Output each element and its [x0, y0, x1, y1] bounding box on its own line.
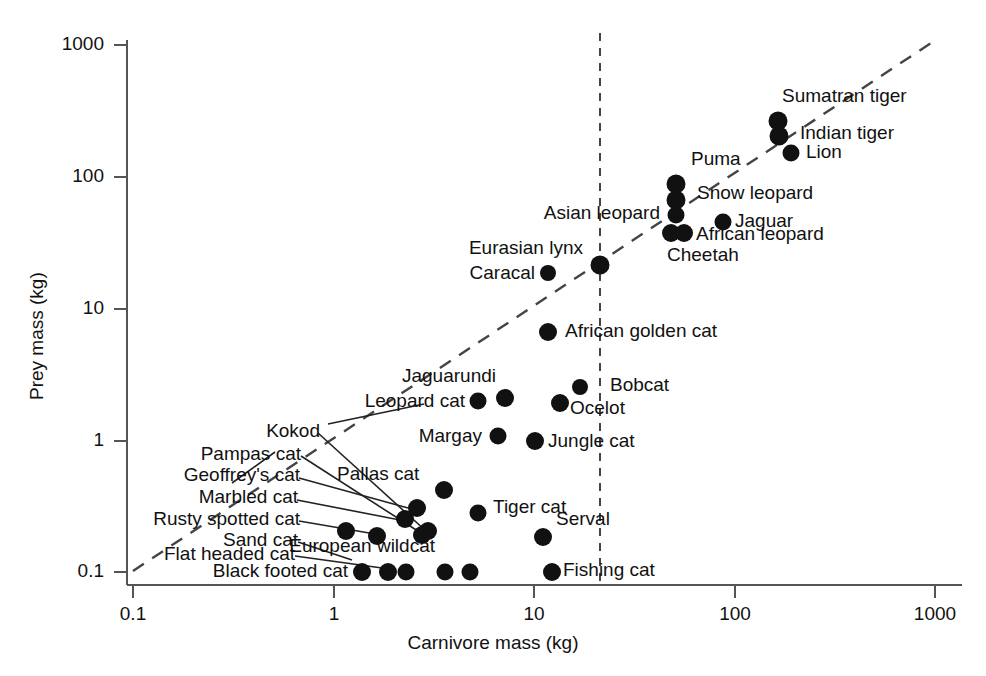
point-serval[interactable] [534, 528, 552, 546]
label-asian-leopard: Asian leopard [455, 203, 660, 222]
label-margay: Margay [330, 426, 482, 445]
label-indian-tiger: Indian tiger [800, 123, 894, 142]
point-fishing-cat[interactable] [543, 563, 561, 581]
y-tick-label-1000: 1000 [36, 33, 104, 55]
label-jungle-cat: Jungle cat [548, 431, 635, 450]
label-rusty-spotted-cat: Rusty spotted cat [80, 509, 300, 528]
point-asian-leopard[interactable] [668, 207, 685, 224]
point-african-golden-cat[interactable] [539, 323, 557, 341]
scatter-plot-figure: 1000 100 10 1 0.1 0.1 1 10 100 1000 Prey… [0, 0, 986, 676]
point-caracal[interactable] [540, 265, 556, 281]
label-leopard-cat: Leopard cat [290, 391, 465, 410]
x-tick-label-100: 100 [695, 603, 775, 625]
x-tick-label-1000: 1000 [895, 603, 975, 625]
point-cheetah[interactable] [675, 224, 693, 242]
point-marbled-cat[interactable] [396, 510, 414, 528]
label-black-footed-cat: Black footed cat [100, 561, 348, 580]
point-jungle-cat[interactable] [526, 432, 544, 450]
label-puma: Puma [691, 149, 741, 168]
y-axis-title: Prey mass (kg) [26, 272, 48, 400]
y-tick-label-100: 100 [36, 165, 104, 187]
label-kokod: Kokod [115, 421, 320, 440]
point-eurasian-lynx[interactable] [591, 256, 610, 275]
label-jaguarundi: Jaguarundi [300, 366, 496, 385]
point-black-footed-cat[interactable] [353, 563, 371, 581]
point-european-wildcat[interactable] [437, 564, 454, 581]
label-african-golden-cat: African golden cat [565, 321, 717, 340]
point-jaguarundi[interactable] [496, 389, 514, 407]
point-margay[interactable] [490, 428, 507, 445]
x-tick-label-1: 1 [294, 603, 374, 625]
point-indian-tiger[interactable] [770, 127, 789, 146]
x-axis-ticks [133, 585, 935, 598]
label-bobcat: Bobcat [610, 375, 669, 394]
label-serval: Serval [556, 509, 610, 528]
point-bobcat[interactable] [572, 379, 588, 395]
label-pampas-cat: Pampas cat [115, 444, 301, 463]
label-caracal: Caracal [393, 263, 535, 282]
point-pallas-cat[interactable] [435, 481, 453, 499]
point-lion[interactable] [783, 145, 800, 162]
label-cheetah: Cheetah [667, 245, 739, 264]
point-unlabeled-1[interactable] [462, 564, 479, 581]
point-flat-headed-cat[interactable] [398, 564, 415, 581]
label-eurasian-lynx: Eurasian lynx [393, 238, 583, 257]
label-pallas-cat: Pallas cat [337, 464, 419, 483]
y-tick-label-0.1: 0.1 [36, 560, 104, 582]
label-sumatran-tiger: Sumatran tiger [782, 86, 907, 105]
point-ocelot[interactable] [551, 394, 569, 412]
label-marbled-cat: Marbled cat [100, 487, 298, 506]
label-fishing-cat: Fishing cat [563, 560, 655, 579]
point-leopard-cat[interactable] [470, 393, 487, 410]
label-jaguar: Jaguar [735, 211, 793, 230]
point-sand-cat[interactable] [379, 563, 397, 581]
label-snow-leopard: Snow leopard [697, 183, 813, 202]
label-ocelot: Ocelot [570, 398, 625, 417]
label-lion: Lion [806, 142, 842, 161]
x-tick-label-0.1: 0.1 [93, 603, 173, 625]
point-tiger-cat[interactable] [470, 505, 487, 522]
x-tick-label-10: 10 [494, 603, 574, 625]
y-tick-label-1: 1 [36, 429, 104, 451]
label-geoffreys-cat: Geoffrey's cat [100, 465, 300, 484]
x-axis-title: Carnivore mass (kg) [0, 632, 986, 654]
